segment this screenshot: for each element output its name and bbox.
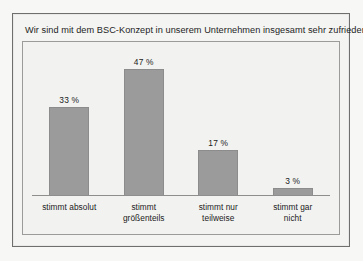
category-label-line: stimmt xyxy=(107,202,182,213)
plot-box: 33 %47 %17 %3 % stimmt absolutstimmtgröß… xyxy=(22,41,340,235)
bar-value-label: 33 % xyxy=(59,95,79,105)
bar-slot: 47 % xyxy=(107,42,182,196)
bar-slot: 17 % xyxy=(181,42,256,196)
bar-slot: 33 % xyxy=(32,42,107,196)
plot-area: 33 %47 %17 %3 % stimmt absolutstimmtgröß… xyxy=(23,42,339,234)
category-labels-layer: stimmt absolutstimmtgrößenteilsstimmt nu… xyxy=(32,196,330,234)
bar[interactable] xyxy=(198,150,238,196)
chart-title: Wir sind mit dem BSC-Konzept in unserem … xyxy=(21,21,341,39)
bar-slot: 3 % xyxy=(256,42,331,196)
category-label-line: stimmt nur xyxy=(181,202,256,213)
bar-value-label: 47 % xyxy=(134,57,154,67)
category-label: stimmt garnicht xyxy=(256,202,331,224)
category-label: stimmt absolut xyxy=(32,202,107,213)
category-label-line: nicht xyxy=(256,213,331,224)
bars-layer: 33 %47 %17 %3 % xyxy=(32,42,330,196)
bar-value-label: 17 % xyxy=(208,138,228,148)
bar[interactable] xyxy=(124,69,164,196)
category-label-line: größenteils xyxy=(107,213,182,224)
figure-outer-frame: Wir sind mit dem BSC-Konzept in unserem … xyxy=(12,13,350,247)
category-label-line: teilweise xyxy=(181,213,256,224)
category-label: stimmt nurteilweise xyxy=(181,202,256,224)
bar[interactable] xyxy=(49,107,89,196)
category-label-line: stimmt gar xyxy=(256,202,331,213)
category-label: stimmtgrößenteils xyxy=(107,202,182,224)
figure-container: Wir sind mit dem BSC-Konzept in unserem … xyxy=(0,0,363,261)
bar-value-label: 3 % xyxy=(285,176,300,186)
category-label-line: stimmt absolut xyxy=(32,202,107,213)
